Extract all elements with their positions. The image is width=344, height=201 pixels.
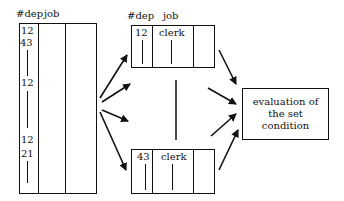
bottom-dep-value: 43 <box>137 151 150 162</box>
arrow-mid-to-eval-1 <box>208 88 236 104</box>
arrow-to-bottom-table <box>100 112 126 170</box>
top-col-divider-2 <box>193 25 194 68</box>
top-dep-value: 12 <box>135 27 148 38</box>
top-header-job: job <box>163 11 179 21</box>
bottom-col-divider-1 <box>152 149 153 194</box>
left-col-divider-2 <box>65 23 66 194</box>
left-header-job: job <box>44 9 60 19</box>
bottom-job-continuation <box>172 164 173 190</box>
evaluation-line-2: the set <box>268 108 303 120</box>
arrow-mid-to-eval-2 <box>211 114 236 136</box>
left-header-dep: #dep <box>16 9 43 19</box>
left-dep-value: 43 <box>20 37 33 48</box>
left-table <box>19 23 97 194</box>
left-dep-continuation <box>27 91 28 128</box>
evaluation-line-1: evaluation of <box>253 96 319 108</box>
left-dep-value: 21 <box>21 148 34 159</box>
top-header-dep: #dep <box>127 11 154 21</box>
top-col-divider-1 <box>152 25 153 68</box>
bottom-dep-continuation <box>145 164 146 190</box>
top-dep-continuation <box>142 40 143 64</box>
left-dep-value: 12 <box>21 134 34 145</box>
left-dep-value: 12 <box>21 77 34 88</box>
left-dep-continuation <box>27 161 28 183</box>
evaluation-line-3: condition <box>262 120 309 132</box>
left-col-divider-1 <box>38 23 39 194</box>
arrow-bottom-table-to-eval <box>219 130 238 170</box>
arrow-to-middle-down <box>102 110 128 121</box>
bottom-col-divider-2 <box>193 149 194 194</box>
left-dep-continuation <box>27 50 28 76</box>
bottom-job-value: clerk <box>161 151 187 162</box>
arrow-to-top-table <box>100 55 127 98</box>
arrow-top-table-to-eval <box>219 50 236 84</box>
top-job-continuation <box>171 40 172 64</box>
top-job-value: clerk <box>159 27 185 38</box>
left-dep-value: 12 <box>21 25 34 36</box>
evaluation-box: evaluation of the set condition <box>242 88 329 140</box>
